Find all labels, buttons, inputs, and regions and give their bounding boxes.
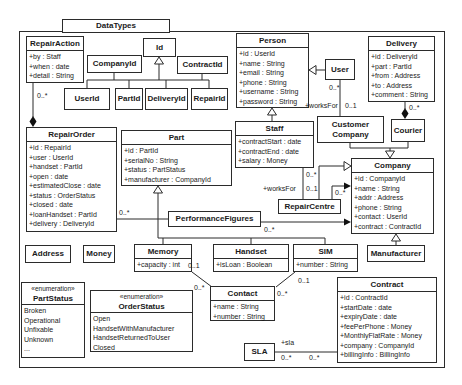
uml-attribute: +billingInfo : BillingInfo [340,350,434,360]
uml-attribute: +contact : UserId [354,212,431,222]
class-name: Id [155,43,164,53]
class-name: Money [85,249,112,259]
uml-attribute: +phone : String [239,78,306,88]
attribute-compartment: +id : ContractId +startDate : date +expi… [338,292,436,360]
uml-attribute: +handset : PartId [29,162,114,172]
class-name: SLA [251,347,269,357]
class-name: CompanyId [92,59,138,69]
generalization-triangle-company-top [386,151,395,158]
class-sim: SIM +number : String [293,244,358,272]
class-money: Money [83,245,115,263]
uml-attribute: +user : UserId [29,153,114,163]
uml-attribute: +id : ContractId [340,293,434,303]
class-person: Person +id : UserId +name : String +emai… [236,33,309,108]
uml-attribute: +from : Address [371,71,432,81]
multiplicity-label: 0..* [264,226,275,234]
class-handset: Handset +isLoan : Boolean [213,244,289,272]
class-customer-company: Customer Company [317,116,384,143]
uml-attribute: +expiryDate : date [340,312,434,322]
enum-literal: HandsetWithManufacturer [93,324,190,334]
generalization-triangle-person-right [309,66,316,75]
uml-attribute: +id : DeliveryId [371,52,432,62]
class-name: DeliveryId [146,94,186,104]
uml-class-diagram: DataTypes RepairAction +by : Staff +when… [0,0,462,385]
uml-attribute: +status : PartStatus [124,165,229,175]
class-name: Manufacturer [370,249,423,259]
uml-attribute: +id : CompanyId [354,174,431,184]
class-name: Memory [135,245,191,259]
literal-compartment: Broken Operational Unfixable Unknown ... [22,305,84,354]
class-name: Courier [393,126,423,136]
role-label: +worksFor [263,185,296,193]
uml-attribute: +contractEnd : date [238,147,311,157]
multiplicity-label: 0..1 [298,277,310,285]
class-name: Customer Company [318,120,383,140]
uml-attribute: +to : Address [371,81,432,91]
enum-partstatus: «enumeration» PartStatus Broken Operatio… [21,282,85,358]
enum-orderstatus: «enumeration» OrderStatus Open HandsetWi… [90,290,193,352]
attribute-compartment: +name : String +number : String [211,301,274,321]
generalization-triangle-company-bottom [392,234,401,241]
association-arrow-company-2 [344,219,351,226]
uml-attribute: +loanHandset : PartId [29,210,114,220]
attribute-compartment: +by : Staff +when : date +detail : Strin… [27,51,83,81]
uml-attribute: +manufacturer : CompanyId [124,175,229,185]
class-contractid: ContractId [177,56,228,74]
class-manufacturer: Manufacturer [367,245,425,262]
class-sla: SLA [244,343,275,361]
attribute-compartment: +id : RepairId +user : UserId +handset :… [27,142,116,229]
uml-attribute: +number : String [296,260,355,270]
class-name: Delivery [369,37,434,51]
class-contract: Contract +id : ContractId +startDate : d… [337,277,437,363]
uml-attribute: +id : PartId [124,146,229,156]
multiplicity-label: 0..* [277,290,288,298]
enum-literal: Unfixable [24,325,82,335]
class-name: RepairAction [27,37,83,51]
class-repairid: RepairId [191,88,228,110]
enum-literal: Operational [24,316,82,326]
multiplicity-label: 0..* [329,84,340,92]
attribute-compartment: +capacity : int [135,259,191,270]
composition-diamond-repairorder [30,116,37,127]
uml-attribute: +when : date [29,62,81,72]
enum-name: OrderStatus [91,301,192,313]
class-partid: PartId [115,88,143,110]
class-memory: Memory +capacity : int [134,244,192,272]
multiplicity-label: 0..* [306,171,317,179]
multiplicity-label: 0..* [194,284,205,292]
composition-diamond-courier [402,108,409,119]
multiplicity-label: 0..* [37,92,48,100]
uml-attribute: +addr : Address [354,193,431,203]
enum-literal: Broken [24,306,82,316]
attribute-compartment: +id : DeliveryId +part : PartId +from : … [369,51,434,100]
class-performancefigures: PerformanceFigures [168,211,261,227]
enum-name: PartStatus [22,293,84,305]
enum-literal: Closed [93,343,190,353]
uml-attribute: +open : date [29,172,114,182]
class-name: RepairOrder [27,128,116,142]
class-courier: Courier [391,119,425,142]
class-id: Id [143,38,176,57]
class-name: Staff [236,122,313,136]
class-deliveryid: DeliveryId [145,88,188,110]
generalization-triangle-part [154,186,163,193]
class-name: Company [352,159,433,173]
uml-attribute: +serialNo : String [124,156,229,166]
class-name: Contact [211,287,274,301]
uml-attribute: +name : String [354,184,431,194]
uml-attribute: +MonthlyFlatRate : Money [340,331,434,341]
class-user: User [325,59,355,80]
uml-attribute: +salary : Money [238,156,311,166]
enum-literal: Unknown [24,335,82,345]
uml-attribute: +id : RepairId [29,143,114,153]
uml-attribute: +comment : String [371,90,432,100]
role-label: +worksFor [305,102,338,110]
class-name: RepairId [192,94,226,104]
stereotype-label: «enumeration» [22,283,84,293]
uml-attribute: +status : OrderStatus [29,191,114,201]
uml-attribute: +isLoan : Boolean [216,260,286,270]
class-name: User [330,65,350,75]
class-name: PartId [117,94,142,104]
generalization-triangle-id [155,57,164,64]
class-address: Address [25,245,71,263]
